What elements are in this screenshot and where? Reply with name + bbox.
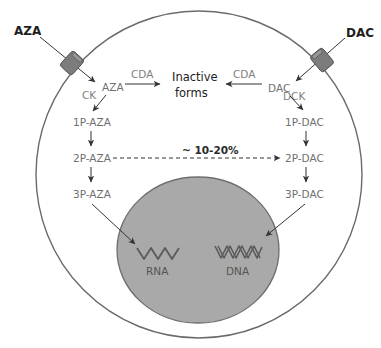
2p-aza-label: 2P-AZA xyxy=(73,152,112,164)
external-aza-label: AZA xyxy=(14,24,42,38)
inactive-forms-line1: Inactive xyxy=(172,70,218,84)
diagram-canvas: AZA DAC AZA CK 1P-AZA 2P-AZA 3P-AZA CDA … xyxy=(0,0,381,348)
cda-right-label: CDA xyxy=(233,68,256,80)
conversion-percent-label: ~ 10-20% xyxy=(182,144,239,156)
3p-aza-label: 3P-AZA xyxy=(73,188,112,200)
nucleus xyxy=(117,177,279,323)
2p-dac-label: 2P-DAC xyxy=(285,152,324,164)
ck-enzyme-label: CK xyxy=(82,89,97,101)
dna-label: DNA xyxy=(226,265,250,277)
rna-label: RNA xyxy=(146,265,169,277)
external-dac-label: DAC xyxy=(346,26,374,40)
dck-enzyme-label: DCK xyxy=(283,90,306,102)
aza-inner-label: AZA xyxy=(102,81,124,93)
3p-dac-label: 3P-DAC xyxy=(285,188,324,200)
inactive-forms-line2: forms xyxy=(175,86,208,100)
1p-aza-label: 1P-AZA xyxy=(73,116,112,128)
cda-left-label: CDA xyxy=(131,68,154,80)
1p-dac-label: 1P-DAC xyxy=(285,116,324,128)
